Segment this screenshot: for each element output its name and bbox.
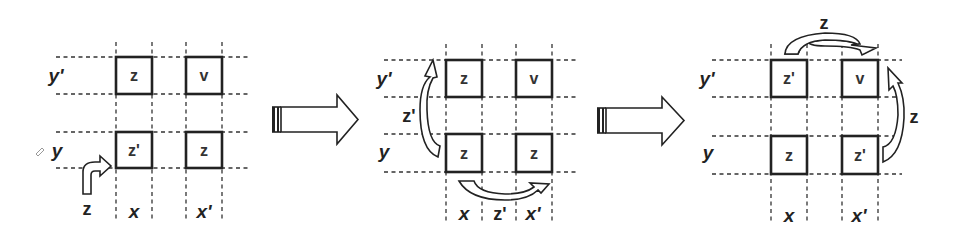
col-label-left: x (128, 201, 141, 222)
cell-label: z' (783, 70, 795, 87)
cell-label: z (200, 142, 208, 159)
curved-arrow-right-icon (459, 181, 549, 200)
cell-bottom-left: z' (116, 132, 152, 168)
row-label-top: y' (375, 68, 393, 89)
move-label: z (820, 13, 829, 33)
cell-label: v (856, 70, 865, 87)
right-arrow-icon (597, 97, 684, 145)
panel-1: z v z' z y' y x x' z (36, 42, 250, 222)
cell-bottom-left: z (771, 136, 807, 174)
cell-label: z' (854, 147, 866, 164)
cell-label: z' (128, 142, 140, 159)
row-label-bottom: y (702, 142, 715, 163)
cell-label: v (200, 67, 209, 84)
cell-top-right: v (842, 60, 878, 97)
move-label: z (910, 107, 919, 127)
col-label-middle: z' (493, 204, 506, 224)
right-arrow-icon (272, 95, 358, 144)
col-label-right: x' (524, 203, 542, 224)
row-label-bottom: y (51, 140, 64, 161)
cell-bottom-right: z (186, 132, 222, 168)
move-label: z (83, 199, 92, 219)
cell-label: z (460, 70, 468, 87)
curved-arrow-up-icon (420, 60, 440, 157)
cell-top-right: v (186, 57, 222, 94)
cell-label: z (785, 147, 793, 164)
col-label-right: x' (195, 201, 213, 222)
move-label: z' (402, 106, 415, 126)
cell-bottom-left: z (446, 134, 482, 172)
cell-bottom-right: z (516, 134, 552, 172)
cell-top-left: z (116, 57, 152, 94)
col-label-left: x (783, 205, 796, 226)
col-label-right: x' (850, 205, 868, 226)
pencil-mark-icon (36, 148, 44, 156)
cell-label: z (460, 145, 468, 162)
panel-2: z v z z y' y x z' x' z' (375, 44, 576, 224)
cell-label: z (130, 67, 138, 84)
cell-label: z (530, 145, 538, 162)
panel-3: z' v z z' y' y x x' z z (698, 13, 918, 226)
swap-diagram: z v z' z y' y x x' z (0, 0, 954, 235)
cell-label: v (530, 70, 539, 87)
cell-top-left: z' (771, 60, 807, 97)
cell-bottom-right: z' (842, 136, 878, 174)
cell-top-right: v (516, 60, 552, 97)
bent-arrow-icon (83, 156, 111, 194)
curved-arrow-right-icon (785, 33, 876, 55)
row-label-bottom: y (378, 141, 391, 162)
curved-arrow-up-icon (883, 68, 904, 162)
row-label-top: y' (698, 68, 716, 89)
col-label-left: x (458, 203, 471, 224)
cell-top-left: z (446, 60, 482, 97)
row-label-top: y' (47, 65, 65, 86)
